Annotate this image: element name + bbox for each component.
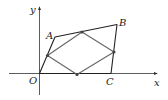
label-C: C xyxy=(106,76,114,87)
mid-OA-dot xyxy=(46,54,49,57)
point-labels: yABOCx xyxy=(29,4,160,88)
midpoint-parallelogram xyxy=(48,32,115,75)
quadrilateral-midpoint-diagram: yABOCx xyxy=(0,0,168,100)
mid-AB-dot xyxy=(80,30,83,33)
label-y: y xyxy=(29,4,36,15)
mid-BC-dot xyxy=(112,50,115,53)
label-x: x xyxy=(154,77,160,88)
label-A: A xyxy=(45,30,53,41)
label-B: B xyxy=(118,17,126,28)
mid-OC-dot xyxy=(75,73,78,76)
label-O: O xyxy=(29,75,37,86)
